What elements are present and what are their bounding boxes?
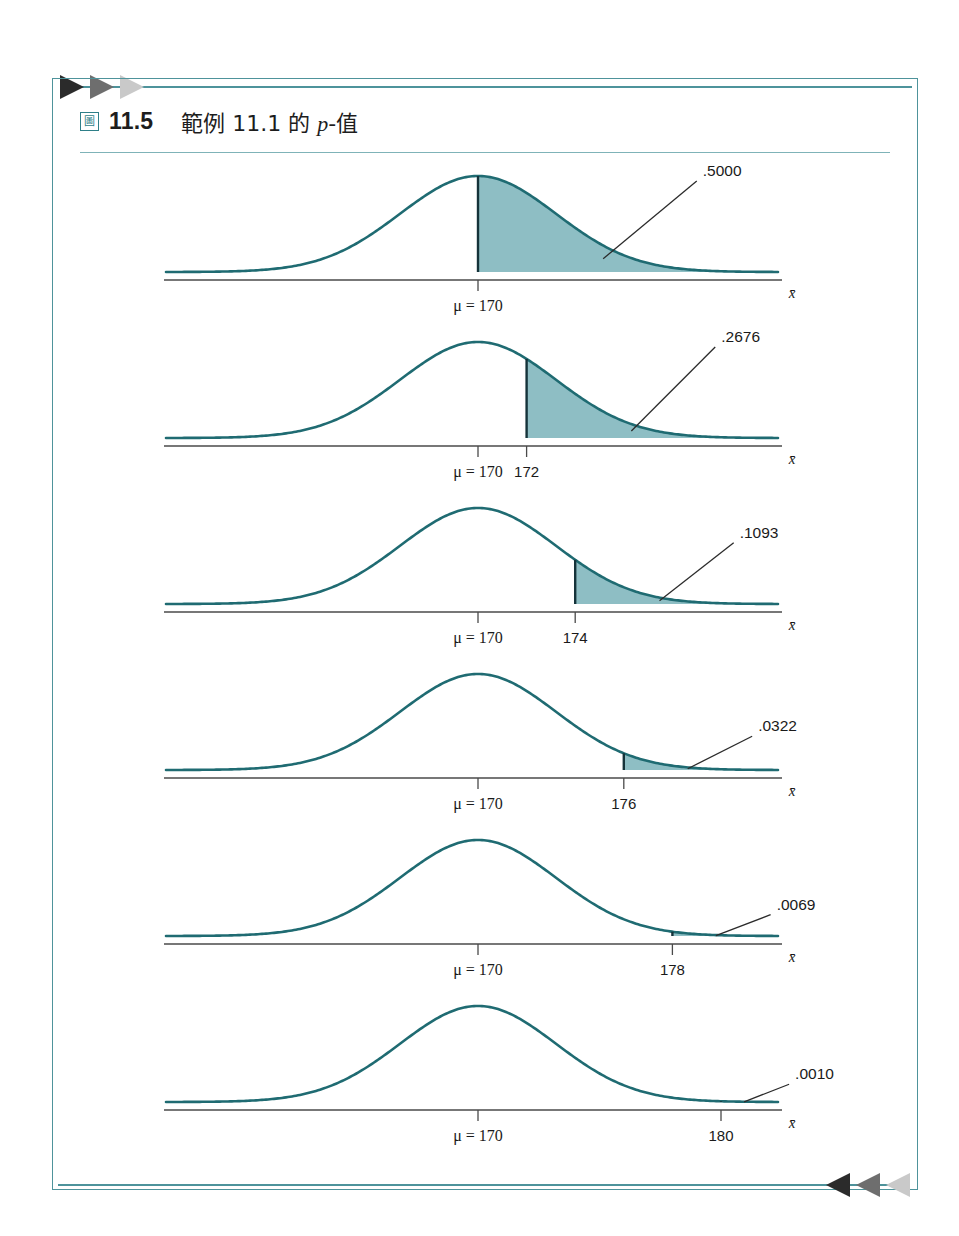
cutoff-value-label: 176 xyxy=(611,795,636,812)
x-axis-name: x̄ xyxy=(788,949,796,965)
x-axis-name: x̄ xyxy=(788,285,796,301)
cutoff-value-label: 178 xyxy=(660,961,685,978)
caption-pre: 範例 11.1 的 xyxy=(181,111,317,136)
caption-post: -值 xyxy=(328,111,358,136)
cutoff-value-label: 180 xyxy=(708,1127,733,1144)
caption-italic-p: p xyxy=(317,111,328,136)
label-leader-line xyxy=(631,347,715,431)
normal-curve xyxy=(166,1006,778,1102)
p-value-area-label: .0069 xyxy=(777,896,816,913)
cutoff-value-label: 174 xyxy=(563,629,588,646)
label-leader-line xyxy=(744,1084,789,1102)
label-leader-line xyxy=(688,736,752,768)
figure-number: 11.5 xyxy=(109,108,153,135)
arrow-triangle-mid xyxy=(856,1173,880,1197)
distribution-panel: μ = 170180x̄.0010 xyxy=(52,990,918,1156)
distribution-panel: μ = 170x̄.5000 xyxy=(52,160,918,326)
bottom-arrow-decoration xyxy=(54,1168,916,1202)
mean-label: μ = 170 xyxy=(453,1127,503,1145)
mean-label: μ = 170 xyxy=(453,297,503,315)
mean-label: μ = 170 xyxy=(453,629,503,647)
distribution-panel-stack: μ = 170x̄.5000μ = 170172x̄.2676μ = 17017… xyxy=(52,160,918,1160)
normal-curve xyxy=(166,840,778,936)
shaded-tail-area xyxy=(575,560,776,604)
arrow-triangle-dark xyxy=(826,1173,850,1197)
normal-curve xyxy=(166,342,778,438)
arrow-triangle-light xyxy=(886,1173,910,1197)
p-value-area-label: .2676 xyxy=(721,328,760,345)
x-axis-name: x̄ xyxy=(788,783,796,799)
p-value-area-label: .0322 xyxy=(758,717,797,734)
p-value-area-label: .5000 xyxy=(703,162,742,179)
shaded-tail-area xyxy=(527,359,776,438)
distribution-panel: μ = 170176x̄.0322 xyxy=(52,658,918,824)
distribution-panel: μ = 170174x̄.1093 xyxy=(52,492,918,658)
x-axis-name: x̄ xyxy=(788,451,796,467)
figure-page: 圖 11.5 範例 11.1 的 p-值 μ = 170x̄.5000μ = 1… xyxy=(0,0,959,1236)
cutoff-value-label: 172 xyxy=(514,463,539,480)
p-value-area-label: .0010 xyxy=(795,1065,834,1082)
label-leader-line xyxy=(660,543,734,601)
mean-label: μ = 170 xyxy=(453,961,503,979)
label-leader-line xyxy=(603,181,697,259)
x-axis-name: x̄ xyxy=(788,1115,796,1131)
normal-curve xyxy=(166,508,778,604)
mean-label: μ = 170 xyxy=(453,795,503,813)
mean-label: μ = 170 xyxy=(453,463,503,481)
p-value-area-label: .1093 xyxy=(740,524,779,541)
label-leader-line xyxy=(716,915,771,936)
figure-title: 圖 11.5 範例 11.1 的 p-值 xyxy=(80,100,880,142)
normal-curve xyxy=(166,674,778,770)
distribution-panel: μ = 170178x̄.0069 xyxy=(52,824,918,990)
figure-caption: 範例 11.1 的 p-值 xyxy=(181,105,358,137)
x-axis-name: x̄ xyxy=(788,617,796,633)
title-divider xyxy=(80,152,890,153)
distribution-panel: μ = 170172x̄.2676 xyxy=(52,326,918,492)
figure-glyph-icon: 圖 xyxy=(80,112,99,131)
